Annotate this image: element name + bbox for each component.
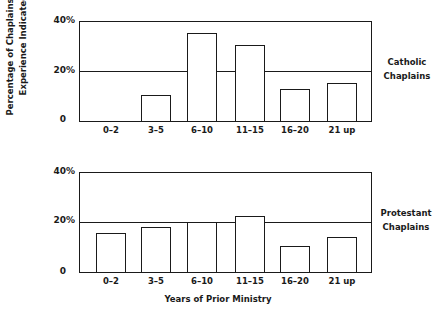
protestant-label-line1: Protestant [376, 206, 436, 220]
x-tick-label: 6–10 [182, 125, 222, 135]
bar-0-2 [96, 233, 126, 272]
x-tick-label: 3–5 [136, 276, 176, 286]
catholic-label-line1: Catholic [378, 55, 436, 69]
ytick-40: 40% [45, 15, 75, 25]
x-tick-label: 0–2 [91, 125, 131, 135]
bar-16-20 [280, 246, 310, 273]
bar-11-15 [235, 45, 265, 121]
x-tick-label: 11–15 [230, 276, 270, 286]
x-tick-label: 21 up [322, 276, 362, 286]
ytick-20: 20% [45, 215, 75, 225]
ytick-0: 0 [36, 266, 66, 276]
catholic-label-line2: Chaplains [378, 69, 436, 83]
protestant-plot-area [79, 172, 372, 273]
x-tick-label: 0–2 [91, 276, 131, 286]
x-tick-label: 11–15 [230, 125, 270, 135]
ytick-40: 40% [45, 166, 75, 176]
bar-6-10 [187, 33, 217, 121]
ytick-0: 0 [36, 114, 66, 124]
catholic-label: Catholic Chaplains [378, 55, 436, 83]
x-tick-label: 3–5 [136, 125, 176, 135]
bar-16-20 [280, 89, 310, 121]
protestant-label-line2: Chaplains [376, 220, 436, 234]
bar-21-up [327, 83, 357, 121]
x-tick-label: 16–20 [275, 125, 315, 135]
x-tick-label: 6–10 [182, 276, 222, 286]
catholic-plot-area [79, 21, 372, 122]
reference-line-20 [80, 71, 371, 72]
y-axis-title-line1: Percentage of Chaplains with [4, 0, 17, 145]
bar-11-15 [235, 216, 265, 272]
y-axis-title: Percentage of Chaplains with Experience … [4, 0, 30, 145]
x-tick-label: 21 up [322, 125, 362, 135]
bar-3-5 [141, 227, 171, 272]
bar-6-10 [187, 222, 217, 273]
reference-line-20 [80, 222, 371, 223]
bar-3-5 [141, 95, 171, 122]
bar-21-up [327, 237, 357, 272]
protestant-label: Protestant Chaplains [376, 206, 436, 234]
ytick-20: 20% [45, 65, 75, 75]
y-axis-title-line2: Experience Indicated [17, 0, 30, 145]
x-tick-label: 16–20 [275, 276, 315, 286]
x-axis-title: Years of Prior Ministry [130, 294, 306, 304]
